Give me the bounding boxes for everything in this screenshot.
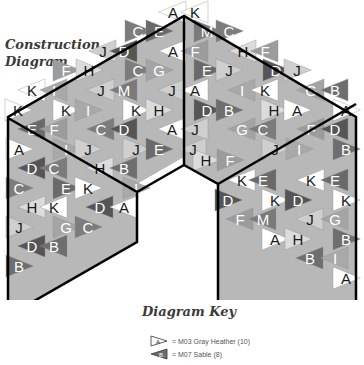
cell-letter: J bbox=[225, 62, 233, 79]
cell-letter: E bbox=[61, 180, 71, 197]
cell-letter: D bbox=[95, 199, 106, 216]
cell-letter: E bbox=[258, 172, 268, 189]
key-item-b: B = M07 Sable (8) bbox=[150, 348, 222, 360]
cell-letter: K bbox=[27, 82, 37, 99]
cell-letter: B bbox=[341, 231, 351, 248]
cell-letter: H bbox=[269, 102, 280, 119]
cell-letter: J bbox=[306, 211, 314, 228]
cell-letter: J bbox=[293, 62, 301, 79]
cell-letter: K bbox=[83, 180, 93, 197]
cell-letter: C bbox=[258, 121, 269, 138]
cell-letter: A bbox=[119, 199, 129, 216]
cell-letter: D bbox=[27, 160, 38, 177]
cell-letter: D bbox=[202, 102, 213, 119]
cell-letter: J bbox=[168, 82, 176, 99]
cell-letter: B bbox=[49, 238, 59, 255]
svg-text:B: B bbox=[159, 352, 163, 358]
cell-letter: A bbox=[167, 121, 177, 138]
key-label-b: = M07 Sable (8) bbox=[172, 351, 222, 358]
cell-letter: A bbox=[168, 43, 178, 60]
cell-letter: C bbox=[49, 160, 60, 177]
cell-letter: J bbox=[15, 219, 23, 236]
cell-letter: C bbox=[133, 62, 144, 79]
svg-text:A: A bbox=[156, 339, 160, 345]
cell-letter: E bbox=[202, 62, 212, 79]
cell-letter: F bbox=[235, 211, 244, 228]
cell-letter: B bbox=[305, 250, 315, 267]
cell-letter: H bbox=[201, 152, 212, 169]
cell-letter: G bbox=[236, 121, 248, 138]
cell-letter: J bbox=[189, 141, 197, 158]
cell-letter: J bbox=[84, 141, 92, 158]
key-item-a: A = M03 Gray Heather (10) bbox=[150, 335, 250, 347]
cell-letter: I bbox=[86, 102, 90, 119]
cell-letter: H bbox=[293, 231, 304, 248]
cell-letter: C bbox=[224, 23, 235, 40]
cell-letter: I bbox=[240, 82, 244, 99]
cell-letter: D bbox=[119, 121, 130, 138]
cell-letter: H bbox=[27, 199, 38, 216]
cell-letter: B bbox=[224, 102, 234, 119]
cell-letter: A bbox=[168, 4, 178, 21]
cell-letter: J bbox=[99, 43, 107, 60]
cell-letter: B bbox=[14, 258, 24, 275]
cell-letter: K bbox=[260, 82, 270, 99]
cell-letter: I bbox=[297, 141, 301, 158]
cell-letter: H bbox=[154, 102, 165, 119]
cell-letter: J bbox=[132, 141, 140, 158]
cell-letter: K bbox=[341, 192, 351, 209]
key-swatch-light: A bbox=[150, 335, 168, 347]
cell-letter: K bbox=[131, 102, 141, 119]
cell-letter: K bbox=[237, 172, 247, 189]
cell-letter: A bbox=[270, 231, 280, 248]
cell-letter: G bbox=[60, 219, 72, 236]
cell-letter: M bbox=[118, 82, 131, 99]
cell-letter: A bbox=[341, 270, 351, 287]
cell-letter: J bbox=[97, 82, 105, 99]
cell-letter: C bbox=[96, 121, 107, 138]
cell-letter: C bbox=[83, 219, 94, 236]
cell-letter: K bbox=[61, 102, 71, 119]
cell-letter: F bbox=[49, 121, 58, 138]
cell-letter: E bbox=[154, 141, 164, 158]
cell-letter: D bbox=[223, 192, 234, 209]
cell-letter: C bbox=[14, 180, 25, 197]
cell-letter: A bbox=[190, 82, 200, 99]
construction-diagram: AKCEMCJDAFHFFHCGEJDJKIJMJAIKGBKKIKHDBHAA… bbox=[0, 0, 364, 300]
cell-letter: D bbox=[27, 238, 38, 255]
cell-letter: K bbox=[190, 4, 200, 21]
cell-letter: C bbox=[133, 23, 144, 40]
cell-letter: G bbox=[153, 62, 165, 79]
cell-letter: J bbox=[191, 121, 199, 138]
key-swatch-dark: B bbox=[150, 348, 168, 360]
cell-letter: K bbox=[306, 172, 316, 189]
cell-letter: D bbox=[293, 192, 304, 209]
cell-letter: G bbox=[329, 211, 341, 228]
key-label-a: = M03 Gray Heather (10) bbox=[172, 338, 250, 345]
cell-letter: F bbox=[260, 43, 269, 60]
cell-letter: F bbox=[190, 43, 199, 60]
cell-letter: I bbox=[333, 250, 337, 267]
cell-letter: K bbox=[270, 192, 280, 209]
cell-letter: B bbox=[119, 160, 129, 177]
cell-letter: B bbox=[330, 82, 340, 99]
cell-letter: M bbox=[257, 211, 270, 228]
cell-letter: F bbox=[225, 152, 234, 169]
cell-letter: F bbox=[61, 62, 70, 79]
cell-letter: K bbox=[49, 199, 59, 216]
cell-letter: A bbox=[292, 102, 302, 119]
cell-letter: A bbox=[14, 141, 24, 158]
key-title: Diagram Key bbox=[142, 304, 236, 319]
cell-letter: E bbox=[330, 172, 340, 189]
cell-letter: D bbox=[330, 121, 341, 138]
cell-letter: B bbox=[341, 141, 351, 158]
